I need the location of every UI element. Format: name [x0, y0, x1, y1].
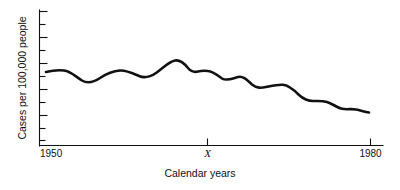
- x-tick-label-right: 1980: [359, 148, 382, 159]
- chart-background: [0, 0, 400, 190]
- line-chart: 1950 X 1980 Calendar years Cases per 100…: [0, 0, 400, 190]
- x-axis-title: Calendar years: [164, 167, 235, 179]
- y-axis-title: Cases per 100,000 people: [16, 16, 28, 139]
- x-axis-marker-x: X: [203, 147, 212, 159]
- x-tick-label-left: 1950: [40, 148, 63, 159]
